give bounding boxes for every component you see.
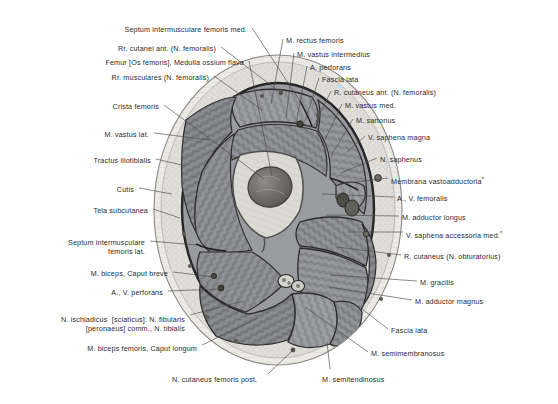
label-m-gracilis: M. gracilis bbox=[420, 278, 454, 287]
label-r-cutaneus-n-obturatorius: R. cutaneus (N. obturatorius) bbox=[404, 252, 501, 261]
rr-musculares-point bbox=[260, 94, 264, 98]
tela-subcutanea-vessel-2 bbox=[234, 339, 238, 343]
label-membrana-vastoadductoria: Membrana vastoadductoria* bbox=[391, 175, 484, 186]
label-m-biceps-femoris-caput-longum: M. biceps femoris, Caput longum bbox=[87, 344, 197, 353]
rr-cutanei-ant-point bbox=[279, 91, 283, 95]
a-perforans-vessel-2 bbox=[211, 273, 216, 278]
thigh-cross-section-illustration bbox=[0, 0, 558, 404]
label-m-rectus-femoris: M. rectus femoris bbox=[286, 36, 344, 45]
a-perforans-vessel bbox=[297, 121, 303, 127]
label-septum-intermusculare-femoris-lat: Septum intermuscularefemoris lat. bbox=[68, 238, 145, 256]
label-m-adductor-magnus: M. adductor magnus bbox=[415, 297, 483, 306]
tela-subcutanea-vessel-3 bbox=[188, 264, 192, 268]
footnote-marker: * bbox=[482, 176, 485, 182]
label-a-v-femoralis: A., V. femoralis bbox=[397, 194, 447, 203]
label-n-cutaneus-femoris-post: N. cutaneus femoris post. bbox=[172, 375, 257, 384]
v-femoralis-vessel bbox=[345, 200, 359, 216]
label-crista-femoris: Crista femoris bbox=[113, 102, 159, 111]
label-a-v-perforans: A., V. perforans bbox=[111, 288, 163, 297]
label-femur-os-femoris-medulla-ossium-flava: Femur [Os femoris], Medulla ossium flava bbox=[105, 58, 244, 67]
label-m-semimembranosus: M. semimembranosus bbox=[371, 349, 444, 358]
m-rectus-femoris-muscle bbox=[232, 89, 318, 128]
label-rr-cutanei-ant-n-femoralis: Rr. cutanei ant. (N. femoralis) bbox=[118, 44, 216, 53]
label-cutis: Cutis bbox=[117, 185, 134, 194]
label-m-vastus-intermedius: M. vastus intermedius bbox=[297, 50, 370, 59]
label-tractus-iliotibialis: Tractus iliotibialis bbox=[94, 156, 151, 165]
label-m-semitendinosus: M. semitendinosus bbox=[322, 375, 384, 384]
n-cutaneus-femoris-post-point bbox=[291, 348, 296, 353]
label-septum-intermusculare-femoris-med: Septum intermusculare femoris med. bbox=[124, 25, 247, 34]
m-semitendinosus-muscle bbox=[288, 293, 337, 348]
tela-subcutanea-vessel-6 bbox=[379, 297, 383, 301]
label-m-sartorius: M. sartorius bbox=[356, 116, 395, 125]
label-m-biceps-caput-breve: M. biceps, Caput breve bbox=[91, 269, 168, 278]
anatomy-figure-page: Septum intermusculare femoris med.Rr. cu… bbox=[0, 0, 558, 404]
footnote-marker: * bbox=[500, 230, 503, 236]
label-v-saphena-accessoria-med: V. saphena accessoria med.* bbox=[406, 229, 502, 240]
tela-subcutanea-vessel-5 bbox=[387, 253, 391, 257]
label-n-ischiadicus-sciaticus: N. ischiadicus [sciaticus]: N. fibularis… bbox=[61, 315, 185, 333]
r-cutaneus-ant-n-femoralis-point bbox=[316, 113, 320, 117]
label-m-vastus-lat: M. vastus lat. bbox=[105, 130, 149, 139]
tela-subcutanea-vessel-1 bbox=[205, 315, 209, 319]
label-m-adductor-longus: M. adductor longus bbox=[402, 213, 466, 222]
label-r-cutaneus-ant-n-femoralis: R. cutaneus ant. (N. femoralis) bbox=[334, 88, 436, 97]
v-saphena-magna-vessel bbox=[375, 175, 382, 182]
label-v-saphena-magna: V. saphena magna bbox=[368, 133, 430, 142]
label-a-perforans: A. perforans bbox=[310, 63, 351, 72]
v-perforans-vessel bbox=[218, 285, 224, 291]
tela-subcutanea-vessel-4 bbox=[182, 232, 186, 236]
label-tela-subcutanea: Tela subcutanea bbox=[93, 206, 148, 215]
label-rr-musculares-n-femoralis: Rr. musculares (N. femoralis) bbox=[112, 73, 209, 82]
v-saphena-accessoria-med-vessel bbox=[363, 231, 369, 237]
label-fascia-lata-top: Fascia lata bbox=[322, 75, 358, 84]
label-fascia-lata-bottom: Fascia lata bbox=[391, 326, 427, 335]
label-n-saphenus: N. saphenus bbox=[380, 155, 422, 164]
label-m-vastus-med: M. vastus med. bbox=[345, 101, 396, 110]
